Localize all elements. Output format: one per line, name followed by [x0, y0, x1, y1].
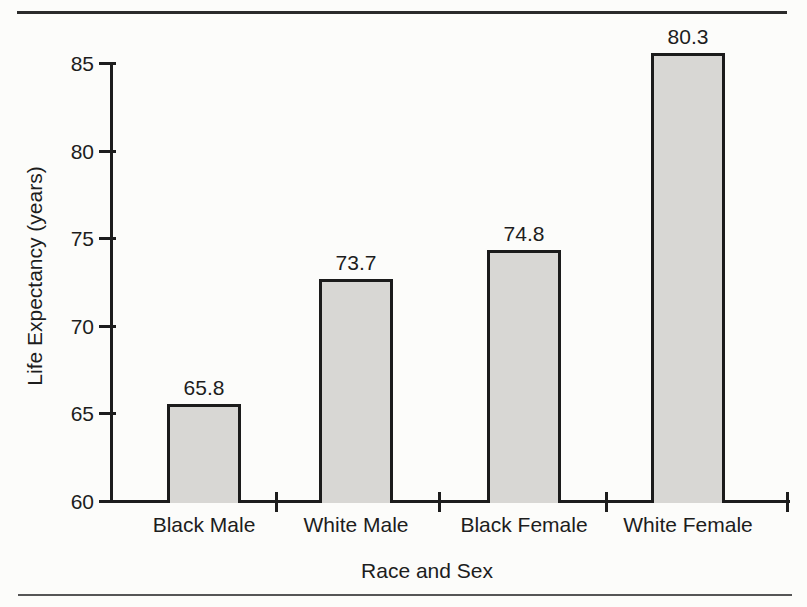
y-axis-line [110, 62, 113, 503]
x-tick [786, 492, 789, 512]
y-tick [99, 62, 116, 65]
bottom-rule [18, 594, 792, 596]
y-tick [99, 150, 116, 153]
x-axis-title: Race and Sex [277, 558, 577, 584]
y-tick [99, 237, 116, 240]
bar-black-male [167, 404, 241, 503]
y-tick [99, 325, 116, 328]
x-tick [275, 492, 278, 512]
y-tick-label: 60 [28, 489, 94, 515]
bar-chart-figure: Life Expectancy (years) Race and Sex 606… [0, 0, 807, 607]
x-category-label-white-female: White Female [588, 512, 788, 538]
y-tick-label: 65 [28, 401, 94, 427]
bar-white-female [651, 53, 725, 503]
x-tick [605, 492, 608, 512]
bar-value-label: 65.8 [144, 375, 264, 401]
y-tick-label: 85 [28, 51, 94, 77]
y-tick-label: 80 [28, 139, 94, 165]
y-tick [99, 412, 116, 415]
y-tick-label: 75 [28, 226, 94, 252]
bar-value-label: 73.7 [296, 250, 416, 276]
bar-white-male [319, 279, 393, 503]
y-tick [99, 500, 116, 503]
y-tick-label: 70 [28, 314, 94, 340]
bar-black-female [487, 250, 561, 503]
x-tick [438, 492, 441, 512]
bar-value-label: 80.3 [628, 24, 748, 50]
page-background: Life Expectancy (years) Race and Sex 606… [0, 0, 807, 607]
bar-value-label: 74.8 [464, 221, 584, 247]
